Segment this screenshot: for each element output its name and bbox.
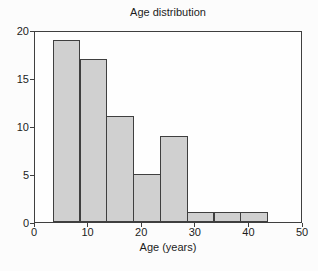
plot-area [34,31,302,223]
y-axis-tick [30,79,34,80]
y-tick-label: 10 [0,120,29,134]
chart-figure: Age distribution Age (years) 01020304050… [0,0,318,271]
histogram-bar [80,59,108,222]
y-axis-tick [30,223,34,224]
histogram-bar [106,116,134,222]
y-axis-tick [30,127,34,128]
y-axis-tick [30,175,34,176]
y-tick-label: 5 [0,168,29,182]
y-axis-tick [30,31,34,32]
x-tick-label: 20 [126,226,156,238]
histogram-bar [187,212,215,222]
histogram-bar [160,136,188,222]
x-tick-label: 50 [287,226,317,238]
x-axis-label: Age (years) [34,241,302,253]
histogram-bar [214,212,242,222]
chart-title: Age distribution [34,6,302,18]
histogram-bar [133,174,161,222]
histogram-bar [240,212,268,222]
histogram-bar [53,40,81,222]
x-tick-label: 40 [233,226,263,238]
x-tick-label: 10 [73,226,103,238]
y-tick-label: 20 [0,24,29,38]
y-tick-label: 0 [0,216,29,230]
x-tick-label: 30 [180,226,210,238]
y-tick-label: 15 [0,72,29,86]
